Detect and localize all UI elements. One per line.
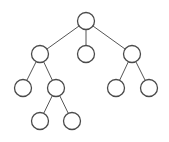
tree-node-a2y: [64, 113, 81, 130]
tree-node-a: [32, 46, 49, 63]
tree-node-root: [78, 13, 95, 30]
tree-diagram: [0, 0, 169, 142]
edge-a2-a2x: [44, 96, 53, 114]
edge-root-c: [93, 26, 125, 49]
tree-node-c1: [108, 80, 125, 97]
edge-root-a: [47, 26, 79, 49]
edges: [27, 26, 145, 113]
tree-node-a1: [15, 80, 32, 97]
nodes: [15, 13, 158, 130]
edge-c-c2: [136, 62, 145, 81]
edge-a-a2: [44, 62, 53, 81]
tree-node-a2x: [32, 113, 49, 130]
edge-a2-a2y: [60, 96, 69, 114]
tree-node-b: [78, 46, 95, 63]
tree-node-a2: [48, 80, 65, 97]
tree-node-c: [124, 46, 141, 63]
edge-a-a1: [27, 62, 36, 81]
edge-c-c1: [120, 62, 129, 81]
tree-node-c2: [141, 80, 158, 97]
